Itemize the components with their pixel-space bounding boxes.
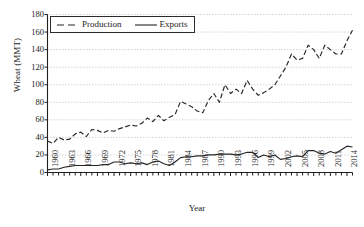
- wheat-production-exports-chart: Wheat (MMT) 020406080100120140160180 196…: [0, 0, 364, 227]
- plot-area: [0, 0, 364, 227]
- legend-entry-exports: Exports: [135, 20, 188, 29]
- legend-swatch-production-dashed-icon: [57, 21, 79, 29]
- legend-entry-production: Production: [57, 20, 122, 29]
- x-axis-title: Year: [47, 203, 347, 213]
- axis-lines: [48, 15, 353, 173]
- series-line-exports: [48, 146, 353, 170]
- legend-label-exports: Exports: [160, 20, 188, 29]
- legend-label-production: Production: [82, 20, 122, 29]
- legend-swatch-exports-solid-icon: [135, 21, 157, 29]
- series-line-production: [48, 30, 353, 143]
- chart-legend: Production Exports: [50, 16, 195, 33]
